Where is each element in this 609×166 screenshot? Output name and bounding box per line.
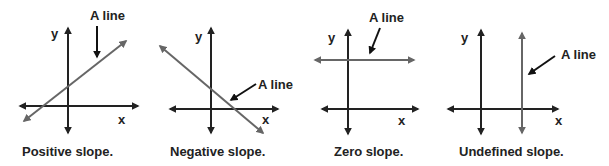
y-axis-label: y xyxy=(328,30,336,45)
slope-diagram: A line y x Positive slope. A line y x Ne… xyxy=(0,0,609,166)
caption: Zero slope. xyxy=(334,144,403,159)
panel-positive-slope: A line y x Positive slope. xyxy=(20,8,138,159)
x-axis-label: x xyxy=(398,113,406,128)
caption: Negative slope. xyxy=(170,144,265,159)
annotation-label: A line xyxy=(258,77,293,92)
panel-zero-slope: A line y x Zero slope. xyxy=(315,10,418,159)
pointer-arrow xyxy=(529,56,555,74)
pointer-arrow xyxy=(231,84,256,100)
x-axis-label: x xyxy=(262,112,270,127)
caption: Undefined slope. xyxy=(459,144,564,159)
panel-negative-slope: A line y x Negative slope. xyxy=(160,28,293,159)
sloped-line xyxy=(24,41,126,121)
y-axis-label: y xyxy=(195,29,203,44)
annotation-label: A line xyxy=(561,47,596,62)
annotation-label: A line xyxy=(90,8,125,23)
x-axis-label: x xyxy=(555,113,563,128)
pointer-arrow xyxy=(370,28,380,53)
y-axis-label: y xyxy=(461,30,469,45)
x-axis-label: x xyxy=(118,112,126,127)
panel-undefined-slope: A line y x Undefined slope. xyxy=(448,30,596,159)
annotation-label: A line xyxy=(369,10,404,25)
caption: Positive slope. xyxy=(22,144,113,159)
y-axis-label: y xyxy=(51,26,59,41)
